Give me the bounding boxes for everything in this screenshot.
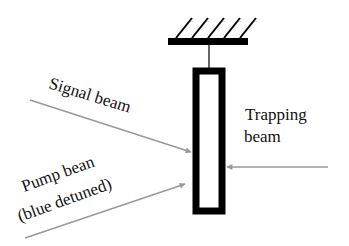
diagram-canvas: Signal beam Pump bean (blue detuned) Tra… bbox=[0, 0, 349, 246]
suspended-element bbox=[196, 71, 222, 211]
trapping-beam-label-line2: beam bbox=[244, 127, 281, 146]
trapping-beam-label-line1: Trapping bbox=[245, 105, 307, 124]
ceiling-support bbox=[168, 18, 256, 45]
